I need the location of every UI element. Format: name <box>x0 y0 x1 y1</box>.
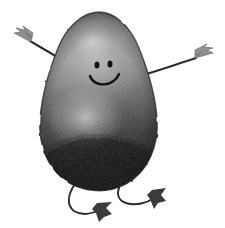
left-eye <box>95 62 100 69</box>
character-illustration <box>0 0 225 228</box>
right-eye <box>108 61 113 68</box>
illustration-canvas <box>0 0 225 228</box>
